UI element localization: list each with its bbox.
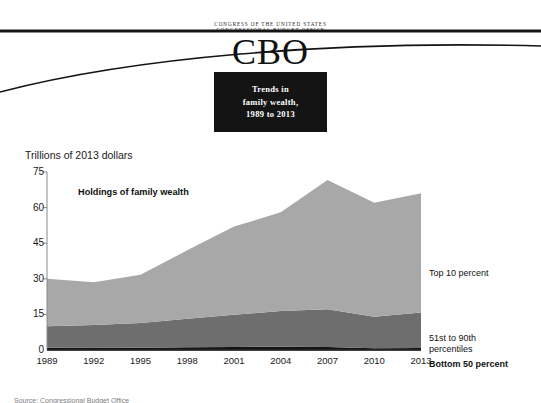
y-tick-label: 15 [24,308,44,319]
x-tick-label: 1998 [177,355,198,366]
report-title-line-2: family wealth, [243,96,299,109]
x-tick-label: 2007 [317,355,338,366]
x-tick-label: 1995 [130,355,151,366]
y-tick-label: 0 [24,344,44,355]
x-tick-label: 2001 [223,355,244,366]
y-tick-label: 75 [24,166,44,177]
x-tick-label: 1989 [36,355,57,366]
series-label-51st-to-90th-percentiles: 51st to 90th percentiles [429,333,476,354]
report-title-plate: Trends in family wealth, 1989 to 2013 [214,72,327,132]
y-axis-tick-labels: 01530456075 [22,140,44,388]
area-series-top-10-percent [47,180,421,326]
report-title-line-3: 1989 to 2013 [246,108,295,121]
source-note: Source: Congressional Budget Office [14,396,314,403]
series-label-bottom-50-percent: Bottom 50 percent [429,359,508,370]
x-tick-label: 2010 [364,355,385,366]
y-tick-label: 60 [24,202,44,213]
family-wealth-area-chart: Trillions of 2013 dollars Holdings of fa… [0,140,541,388]
cbo-wordmark: CBO [0,32,541,72]
y-tick-label: 45 [24,237,44,248]
x-tick-label: 1992 [83,355,104,366]
cbo-masthead: CONGRESS OF THE UNITED STATES CONGRESSIO… [0,0,541,140]
y-tick-label: 30 [24,273,44,284]
series-label-top-10-percent: Top 10 percent [429,268,489,279]
x-tick-label: 2004 [270,355,291,366]
report-title-line-1: Trends in [252,83,289,96]
